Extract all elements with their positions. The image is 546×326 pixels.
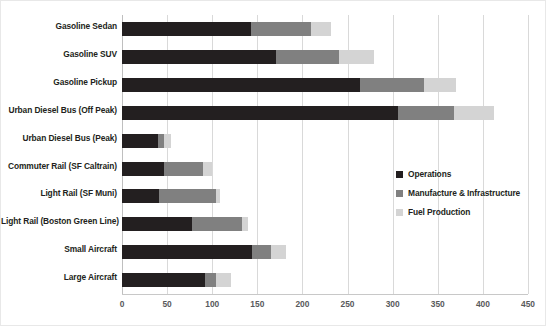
bar-segment[interactable] xyxy=(122,217,192,231)
bar-segment[interactable] xyxy=(122,106,398,120)
category-label: Large Aircraft xyxy=(1,272,117,282)
x-tick-label: 200 xyxy=(295,299,309,309)
legend-item[interactable]: Operations xyxy=(396,169,520,179)
chart-row: Small Aircraft xyxy=(1,238,545,266)
bar-segment[interactable] xyxy=(122,50,276,64)
category-label: Light Rail (Boston Green Line) xyxy=(1,216,117,226)
bar-segment[interactable] xyxy=(203,162,212,176)
legend-swatch-icon xyxy=(396,209,403,216)
bar-segment[interactable] xyxy=(360,78,424,92)
bar-segment[interactable] xyxy=(122,273,205,287)
bar-segment[interactable] xyxy=(122,134,158,148)
x-tick-label: 400 xyxy=(476,299,490,309)
stacked-bar[interactable] xyxy=(122,245,286,259)
legend-swatch-icon xyxy=(396,190,403,197)
x-tick-label: 450 xyxy=(521,299,535,309)
stacked-bar[interactable] xyxy=(122,162,212,176)
chart-row: Large Aircraft xyxy=(1,266,545,294)
bar-segment[interactable] xyxy=(339,50,374,64)
stacked-bar[interactable] xyxy=(122,106,494,120)
chart-legend: OperationsManufacture & InfrastructureFu… xyxy=(396,169,520,226)
stacked-bar[interactable] xyxy=(122,273,231,287)
category-label: Gasoline Pickup xyxy=(1,77,117,87)
category-label: Light Rail (SF Muni) xyxy=(1,188,117,198)
category-label: Urban Diesel Bus (Off Peak) xyxy=(1,105,117,115)
category-label: Urban Diesel Bus (Peak) xyxy=(1,133,117,143)
bar-segment[interactable] xyxy=(398,106,454,120)
chart-row: Urban Diesel Bus (Peak) xyxy=(1,127,545,155)
legend-swatch-icon xyxy=(396,171,403,178)
bar-segment[interactable] xyxy=(192,217,242,231)
bar-segment[interactable] xyxy=(122,162,164,176)
chart-row: Gasoline Pickup xyxy=(1,71,545,99)
legend-item[interactable]: Manufacture & Infrastructure xyxy=(396,188,520,198)
bar-segment[interactable] xyxy=(454,106,494,120)
bar-segment[interactable] xyxy=(122,245,252,259)
stacked-bar[interactable] xyxy=(122,134,171,148)
stacked-bar[interactable] xyxy=(122,189,220,203)
legend-item[interactable]: Fuel Production xyxy=(396,207,520,217)
chart-container: 050100150200250300350400450 Gasoline Sed… xyxy=(0,0,546,326)
x-tick-label: 150 xyxy=(250,299,264,309)
bar-segment[interactable] xyxy=(242,217,248,231)
bar-segment[interactable] xyxy=(122,189,159,203)
bar-segment[interactable] xyxy=(122,78,360,92)
category-label: Gasoline Sedan xyxy=(1,21,117,31)
bar-segment[interactable] xyxy=(205,273,216,287)
stacked-bar[interactable] xyxy=(122,78,456,92)
x-tick-label: 50 xyxy=(162,299,171,309)
x-tick-label: 350 xyxy=(431,299,445,309)
bar-segment[interactable] xyxy=(216,273,231,287)
x-tick-label: 300 xyxy=(386,299,400,309)
bar-segment[interactable] xyxy=(164,162,203,176)
bar-segment[interactable] xyxy=(271,245,286,259)
bar-segment[interactable] xyxy=(424,78,456,92)
bar-segment[interactable] xyxy=(216,189,221,203)
chart-row: Gasoline SUV xyxy=(1,43,545,71)
bar-segment[interactable] xyxy=(251,22,311,36)
bar-segment[interactable] xyxy=(159,189,216,203)
x-tick-label: 250 xyxy=(341,299,355,309)
x-tick-label: 100 xyxy=(205,299,219,309)
category-label: Gasoline SUV xyxy=(1,49,117,59)
legend-label: Fuel Production xyxy=(408,207,470,217)
category-label: Small Aircraft xyxy=(1,244,117,254)
x-axis-line xyxy=(122,294,528,295)
x-tick-label: 0 xyxy=(120,299,125,309)
bar-segment[interactable] xyxy=(122,22,251,36)
bar-segment[interactable] xyxy=(311,22,331,36)
stacked-bar[interactable] xyxy=(122,50,374,64)
legend-label: Manufacture & Infrastructure xyxy=(408,188,520,198)
chart-row: Gasoline Sedan xyxy=(1,15,545,43)
bar-segment[interactable] xyxy=(252,245,271,259)
chart-row: Urban Diesel Bus (Off Peak) xyxy=(1,99,545,127)
bar-segment[interactable] xyxy=(164,134,170,148)
stacked-bar[interactable] xyxy=(122,217,248,231)
bar-segment[interactable] xyxy=(276,50,338,64)
stacked-bar[interactable] xyxy=(122,22,331,36)
legend-label: Operations xyxy=(408,169,451,179)
category-label: Commuter Rail (SF Caltrain) xyxy=(1,161,117,171)
